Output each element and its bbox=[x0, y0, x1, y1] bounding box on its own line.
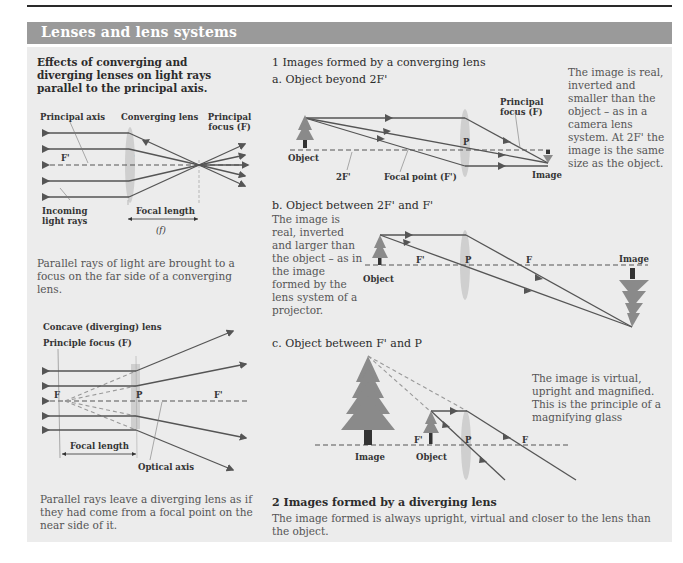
label-a-image: Image bbox=[532, 170, 562, 180]
subsection-c-heading: c. Object between F' and P bbox=[272, 337, 422, 351]
label-a-object: Object bbox=[288, 153, 319, 163]
label-a-focal-point: Focal point (F') bbox=[384, 172, 457, 182]
label-div-f: F bbox=[54, 390, 60, 400]
subsection-c-description: The image is virtual, upright and magnif… bbox=[532, 372, 662, 424]
label-a-principal-focus: Principal focus (F) bbox=[500, 97, 545, 117]
label-b-object: Object bbox=[363, 274, 394, 284]
label-b-p: P bbox=[465, 255, 471, 265]
section2-description: The image formed is always upright, virt… bbox=[272, 512, 662, 538]
label-b-f: F bbox=[526, 255, 532, 265]
section2-heading: 2 Images formed by a diverging lens bbox=[272, 496, 497, 510]
diverging-caption: Parallel rays leave a diverging lens as … bbox=[40, 493, 255, 532]
label-b-f-prime: F' bbox=[416, 255, 425, 265]
subsection-b-description: The image is real, inverted and larger t… bbox=[272, 213, 364, 317]
label-a-p: P bbox=[463, 137, 469, 147]
label-c-object: Object bbox=[416, 452, 447, 462]
label-div-focal-length: Focal length bbox=[70, 441, 129, 451]
label-c-p: P bbox=[465, 435, 471, 445]
label-div-f-prime: F' bbox=[214, 390, 223, 400]
subsection-b-heading: b. Object between 2F' and F' bbox=[272, 199, 433, 213]
label-c-f: F bbox=[522, 435, 528, 445]
subsection-a-description: The image is real, inverted and smaller … bbox=[568, 66, 668, 170]
label-concave-lens: Concave (diverging) lens bbox=[43, 322, 162, 332]
label-optical-axis: Optical axis bbox=[138, 462, 194, 472]
subsection-a-heading: a. Object beyond 2F' bbox=[272, 73, 387, 87]
label-div-p: P bbox=[136, 390, 142, 400]
label-b-image: Image bbox=[619, 254, 649, 264]
label-principle-focus: Principle focus (F) bbox=[43, 338, 132, 348]
label-c-image: Image bbox=[355, 452, 385, 462]
section1-heading: 1 Images formed by a converging lens bbox=[272, 56, 486, 70]
label-c-f-prime: F' bbox=[414, 435, 423, 445]
converging-caption: Parallel rays of light are brought to a … bbox=[37, 257, 247, 296]
label-a-2f: 2F' bbox=[336, 172, 351, 182]
